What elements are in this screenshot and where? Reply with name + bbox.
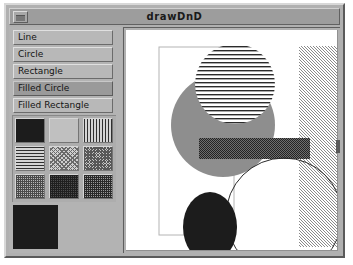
pattern-fill-diagonal-light xyxy=(50,147,78,170)
pattern-swatch-checker-light[interactable] xyxy=(15,174,45,199)
tool-panel: Line Circle Rectangle Filled Circle Fill… xyxy=(9,27,122,253)
title-bar: drawDnD xyxy=(9,8,340,25)
canvas-frame xyxy=(123,27,340,253)
pattern-swatch-horizontal-stripes[interactable] xyxy=(15,146,45,171)
window-body: Line Circle Rectangle Filled Circle Fill… xyxy=(9,27,340,253)
current-fill-preview[interactable] xyxy=(13,205,58,249)
shape-striped-circle xyxy=(195,44,275,124)
tool-button-filled-rectangle[interactable]: Filled Rectangle xyxy=(13,98,113,113)
tool-button-line[interactable]: Line xyxy=(13,30,113,45)
pattern-fill-checker-dark xyxy=(50,175,78,198)
pattern-swatch-solid-black[interactable] xyxy=(15,118,45,143)
shape-filled-rectangle-checker xyxy=(199,138,310,159)
pattern-fill-diagonal-medium xyxy=(84,147,112,170)
drawing-canvas[interactable] xyxy=(126,30,338,251)
shape-filled-ellipse-black xyxy=(183,192,237,251)
pattern-swatch-diagonal-light[interactable] xyxy=(49,146,79,171)
tool-button-filled-circle[interactable]: Filled Circle xyxy=(13,81,113,96)
pattern-fill-horizontal-stripes xyxy=(16,147,44,170)
pattern-fill-empty xyxy=(50,119,78,142)
pattern-fill-vertical-stripes xyxy=(84,119,112,142)
pattern-swatch-empty[interactable] xyxy=(49,118,79,143)
pattern-fill-checker-medium xyxy=(84,175,112,198)
pattern-fill-solid-black xyxy=(16,119,44,142)
pattern-fill-checker-light xyxy=(16,175,44,198)
pattern-grid xyxy=(12,115,116,202)
tool-button-circle[interactable]: Circle xyxy=(13,47,113,62)
tool-button-rectangle[interactable]: Rectangle xyxy=(13,64,113,79)
window-title: drawDnD xyxy=(10,10,339,24)
pattern-swatch-checker-dark[interactable] xyxy=(49,174,79,199)
application-window: drawDnD Line Circle Rectangle Filled Cir… xyxy=(4,3,345,258)
canvas-edge-marker xyxy=(336,140,340,153)
pattern-swatch-diagonal-medium[interactable] xyxy=(83,146,113,171)
pattern-swatch-checker-medium[interactable] xyxy=(83,174,113,199)
pattern-swatch-vertical-stripes[interactable] xyxy=(83,118,113,143)
